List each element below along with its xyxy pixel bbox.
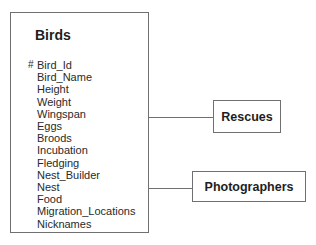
rescues-entity-box: Rescues	[213, 100, 281, 133]
attribute-item: Bird_Name	[27, 71, 135, 83]
attribute-item: Nest	[27, 181, 135, 193]
attribute-item: Nest_Builder	[27, 169, 135, 181]
entity-title: Birds	[35, 27, 71, 43]
connector-line-photographers	[149, 188, 192, 189]
attribute-item: Fledging	[27, 157, 135, 169]
attribute-item: #Bird_Id	[27, 59, 135, 71]
attribute-item: Broods	[27, 132, 135, 144]
attribute-item: Food	[27, 193, 135, 205]
attribute-item: Incubation	[27, 144, 135, 156]
connector-line-rescues	[149, 117, 213, 118]
attribute-item: Height	[27, 83, 135, 95]
attribute-item: Wingspan	[27, 108, 135, 120]
attribute-list: #Bird_Id Bird_Name Height Weight Wingspa…	[27, 59, 135, 230]
attribute-item: Nicknames	[27, 218, 135, 230]
primary-key-marker: #	[28, 59, 34, 71]
birds-entity-box: Birds #Bird_Id Bird_Name Height Weight W…	[10, 12, 149, 233]
attribute-item: Migration_Locations	[27, 205, 135, 217]
photographers-entity-box: Photographers	[192, 171, 306, 202]
attribute-item: Weight	[27, 96, 135, 108]
entity-title: Rescues	[221, 110, 272, 124]
entity-title: Photographers	[205, 180, 294, 194]
attribute-item: Eggs	[27, 120, 135, 132]
